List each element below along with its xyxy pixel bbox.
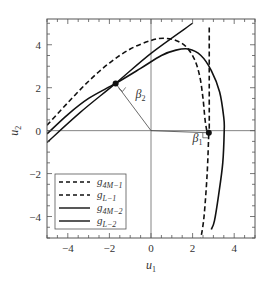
chart: β2β1 −4−2024−4−2024 u1 u2 g4M−1gL−1g4M−2… <box>0 0 271 281</box>
x-tick-label: −4 <box>62 242 74 254</box>
tangent-point-marker <box>113 80 119 86</box>
legend: g4M−1gL−1g4M−2gL−2 <box>55 174 126 229</box>
y-tick-label: −4 <box>29 211 41 223</box>
series-gL-2 <box>47 23 193 142</box>
beta-label: β1 <box>192 131 203 147</box>
y-tick-label: 0 <box>36 125 42 137</box>
tangent-point-marker <box>206 130 212 136</box>
y-tick-label: 2 <box>36 82 42 94</box>
y-axis-label: u2 <box>7 126 23 136</box>
beta-label: β2 <box>134 87 145 103</box>
right-angle-marker <box>119 87 126 91</box>
x-axis-label: u1 <box>146 258 156 274</box>
x-tick-label: 0 <box>148 242 154 254</box>
y-tick-label: 4 <box>36 39 42 51</box>
x-tick-label: 4 <box>231 242 237 254</box>
x-tick-label: −2 <box>104 242 116 254</box>
series-g4M-1 <box>47 38 207 132</box>
annotations: β2β1 <box>113 80 212 147</box>
x-tick-label: 2 <box>190 242 196 254</box>
y-tick-label: −2 <box>29 168 41 180</box>
